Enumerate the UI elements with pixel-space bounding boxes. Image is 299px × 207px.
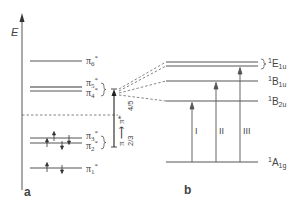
brace-lower <box>101 136 106 149</box>
transition-I-arrowhead-icon <box>190 103 194 110</box>
axis-label: E <box>11 26 19 38</box>
transition-arrow-head-icon <box>112 89 117 96</box>
transition-label-II: II <box>219 126 224 136</box>
label-B2u: 1B2u <box>268 95 286 108</box>
label-pi1: π1* <box>86 162 99 176</box>
axis-arrow-icon <box>20 13 25 22</box>
transition-label-upper: 4/5 <box>126 101 135 111</box>
brace-upper <box>101 83 106 96</box>
brace-E1u <box>261 59 266 69</box>
transition-label-lower: 2/3 <box>126 136 135 146</box>
panel-a: π6* π5* π4* π3* π2* π1* π ⟶ π* 2/3 4/5 a <box>22 54 135 199</box>
label-E1u: 1E1u <box>268 57 286 70</box>
panel-a-label: a <box>24 185 31 199</box>
transition-III-arrowhead-icon <box>238 68 242 75</box>
label-B1u: 1B1u <box>268 75 286 88</box>
label-pi6: π6* <box>86 54 99 68</box>
transition-label-I: I <box>195 126 198 136</box>
panel-b: I II III 1E1u 1B1u 1B2u 1A1g b <box>166 57 286 197</box>
label-A1g: 1A1g <box>268 156 286 170</box>
transition-label: π ⟶ π* <box>116 114 126 146</box>
correlation-lines <box>119 62 166 101</box>
transition-label-III: III <box>243 126 251 136</box>
energy-axis: E <box>11 13 25 190</box>
transition-II-arrowhead-icon <box>214 83 218 90</box>
energy-level-diagram: E π6* π5* π4* π3* π2* π1* <box>0 0 299 207</box>
panel-b-label: b <box>184 183 191 197</box>
